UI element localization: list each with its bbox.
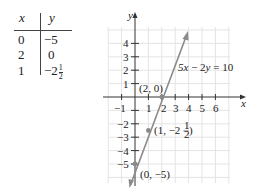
x-tick-label: 6 [213, 102, 219, 114]
point-label-2-0: (2, 0) [139, 82, 163, 95]
y-axis-label: y [127, 9, 133, 21]
point-2-0 [159, 95, 164, 100]
x-tick-label: 1 [146, 102, 152, 114]
x-tick-label: 3 [173, 102, 179, 114]
x-tick-label: 2 [161, 102, 167, 114]
y-tick-label: −5 [117, 158, 129, 170]
point-label-0-neg5: (0, −5) [140, 168, 170, 181]
point-label-1-neg2half: (1, −2 [154, 124, 180, 137]
point-0-neg5 [133, 162, 138, 167]
x-tick-label: 4 [186, 102, 192, 114]
x-tick-label: 5 [200, 102, 206, 114]
point-label-text: (1, −2 [154, 124, 180, 137]
equation-part: 5x [178, 61, 189, 73]
point-label-close-paren: ) [189, 124, 193, 137]
x-axis-label: x [240, 97, 246, 109]
y-tick-label: 3 [123, 51, 129, 63]
line-arrow-up-icon [183, 31, 189, 41]
y-tick-label: −3 [117, 131, 129, 143]
point-1-neg2half [146, 128, 151, 133]
y-axis-arrow-icon [133, 12, 138, 18]
line-arrow-down-icon [129, 179, 135, 188]
y-tick-label: 4 [123, 37, 129, 49]
equation-part: = 10 [211, 61, 234, 73]
y-tick-label: −2 [117, 118, 129, 130]
coordinate-graph: −1 1 2 3 4 5 6 4 3 2 1 −2 −3 −4 −5 x y (… [0, 0, 261, 193]
equation-label: 5x − 2y = 10 [178, 61, 234, 73]
y-tick-label: 1 [123, 78, 129, 90]
y-tick-label: −4 [117, 145, 129, 157]
y-tick-label: 2 [123, 64, 129, 76]
equation-part: − 2 [188, 61, 205, 73]
x-tick-label: −1 [114, 102, 126, 114]
